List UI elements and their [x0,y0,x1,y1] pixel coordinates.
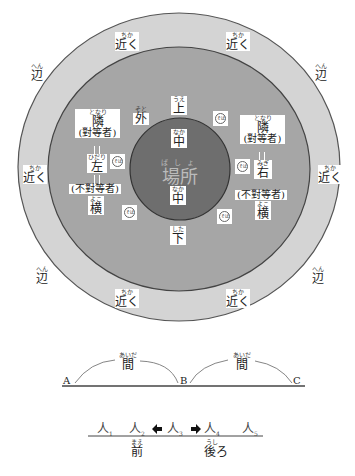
person-4: 人4 [204,423,220,437]
person-1: 人1 [97,423,113,437]
tonari-left: となり隣(對等者) [75,109,120,138]
chikaku-top-left: ちか近く [115,32,139,51]
futou-left: (不對等者) [69,184,121,194]
hen-top-left: へん辺 [28,63,46,82]
shita-label: した下 [170,226,186,245]
naka-top-label: なか中 [171,129,187,148]
point-b: B [180,376,187,386]
chikaku-right: ちか近く [318,165,342,184]
person-5: 人5 [242,423,258,437]
migi-label: みぎ右 [254,160,272,179]
arrow-right-icon [191,424,201,434]
yoko-right: よこ横 [255,201,271,220]
soto-label: そと外 [133,106,149,125]
point-a: A [63,376,70,386]
naka-bottom-label: なか中 [170,186,186,205]
ue-label: うえ上 [171,96,187,115]
chikaku-top-right: ちか近く [226,32,250,51]
hen-top-right: へん辺 [312,63,330,82]
aida-arc-ab-right [140,361,178,383]
person-3: 人3 [167,423,183,437]
mae-label: まえ前 [127,439,147,458]
soba-left: そば [110,154,125,169]
yoko-left: よこ横 [88,196,104,215]
aida-label-bc: あいだ間 [228,352,256,371]
soba-bottom-left: そば [122,205,137,220]
point-c: C [293,376,301,386]
hen-bottom-right: へん辺 [309,266,327,285]
soba-top-right: そば [213,111,228,126]
aida-arc-bc-right [255,361,292,383]
soba-right: そば [235,159,250,174]
aida-arc-bc [190,360,228,383]
aida-label-ab: あいだ間 [114,352,142,371]
futou-right: (不對等者) [235,190,287,200]
ushiro-label: うし後ろ [202,439,230,458]
chikaku-left: ちか近く [23,165,47,184]
arrow-left-icon [152,424,162,434]
chikaku-bottom-left: ちか近く [115,289,139,308]
center-basho: ばしょ場所 [157,160,203,186]
person-2: 人2 [129,423,145,437]
chikaku-bottom-right: ちか近く [226,289,250,308]
hen-bottom-left: へん辺 [33,266,51,285]
soba-bottom-right: そば [217,209,232,224]
tonari-right: となり隣(對等者) [240,115,285,144]
aida-arc-ab [75,360,115,383]
hidari-label: ひだり左 [87,154,107,173]
